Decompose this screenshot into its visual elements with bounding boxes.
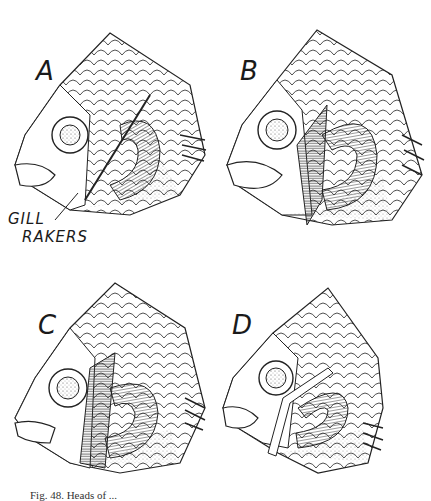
gill-label-line2: RAKERS	[8, 228, 88, 246]
panel-label-a: A	[36, 56, 54, 86]
panel-label-b: B	[240, 56, 258, 86]
fish-head-illustration-c	[10, 278, 210, 478]
fish-head-illustration-d	[218, 278, 418, 478]
panel-d	[218, 278, 418, 478]
panel-a	[10, 25, 210, 225]
panel-c	[10, 278, 210, 478]
gill-rakers-leader-line	[50, 190, 90, 230]
figure-caption: Fig. 48. Heads of ...	[30, 489, 117, 501]
panel-label-c: C	[38, 310, 56, 340]
panel-label-d: D	[232, 310, 252, 340]
fish-head-illustration-a	[10, 25, 210, 225]
